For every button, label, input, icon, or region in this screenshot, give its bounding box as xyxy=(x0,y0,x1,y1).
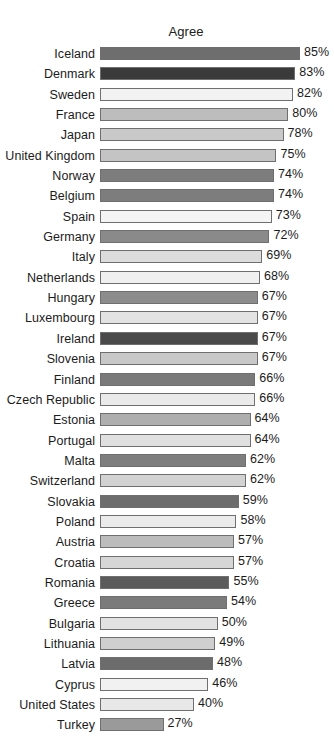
category-label: France xyxy=(0,107,95,123)
bar xyxy=(100,637,215,650)
category-label: United Kingdom xyxy=(0,148,95,164)
value-label: 67% xyxy=(262,350,287,365)
chart-row: Slovenia67% xyxy=(0,349,334,369)
category-label: Netherlands xyxy=(0,270,95,286)
bar-track xyxy=(100,637,300,650)
value-label: 58% xyxy=(240,513,265,528)
value-label: 75% xyxy=(280,147,305,162)
value-label: 82% xyxy=(297,86,322,101)
category-label: Austria xyxy=(0,534,95,550)
category-label: Spain xyxy=(0,209,95,225)
value-label: 74% xyxy=(278,167,303,182)
chart-row: Latvia48% xyxy=(0,654,334,674)
value-label: 72% xyxy=(273,228,298,243)
chart-row: Norway74% xyxy=(0,166,334,186)
chart-title: Agree xyxy=(100,24,272,39)
bar-track xyxy=(100,230,300,243)
bar xyxy=(100,250,262,263)
bar-track xyxy=(100,617,300,630)
chart-row: United Kingdom75% xyxy=(0,146,334,166)
category-label: Czech Republic xyxy=(0,392,95,408)
bar xyxy=(100,515,236,528)
bar xyxy=(100,495,239,508)
bar-track xyxy=(100,210,300,223)
category-label: Denmark xyxy=(0,66,95,82)
category-label: Belgium xyxy=(0,188,95,204)
value-label: 27% xyxy=(168,716,193,731)
category-label: Japan xyxy=(0,127,95,143)
chart-row: Bulgaria50% xyxy=(0,614,334,634)
chart-row: France80% xyxy=(0,105,334,125)
value-label: 64% xyxy=(255,432,280,447)
bar xyxy=(100,576,229,589)
bar xyxy=(100,108,288,121)
bar-track xyxy=(100,128,300,141)
chart-row: Germany72% xyxy=(0,227,334,247)
bar xyxy=(100,149,276,162)
chart-row: Slovakia59% xyxy=(0,492,334,512)
bar-track xyxy=(100,149,300,162)
category-label: Slovenia xyxy=(0,351,95,367)
category-label: Bulgaria xyxy=(0,616,95,632)
value-label: 49% xyxy=(219,635,244,650)
category-label: Luxembourg xyxy=(0,310,95,326)
chart-row: Portugal64% xyxy=(0,431,334,451)
bar xyxy=(100,718,164,731)
category-label: Ireland xyxy=(0,331,95,347)
bar xyxy=(100,311,258,324)
value-label: 67% xyxy=(262,330,287,345)
bar-track xyxy=(100,596,300,609)
bar xyxy=(100,88,293,101)
chart-row: Japan78% xyxy=(0,125,334,145)
value-label: 40% xyxy=(198,696,223,711)
chart-row: Sweden82% xyxy=(0,85,334,105)
category-label: Romania xyxy=(0,575,95,591)
value-label: 57% xyxy=(238,533,263,548)
bar xyxy=(100,67,295,80)
bar xyxy=(100,535,234,548)
category-label: Sweden xyxy=(0,87,95,103)
value-label: 50% xyxy=(222,615,247,630)
chart-row: Cyprus46% xyxy=(0,675,334,695)
bar xyxy=(100,332,258,345)
bar-track xyxy=(100,495,300,508)
chart-row: Belgium74% xyxy=(0,186,334,206)
chart-row: Austria57% xyxy=(0,532,334,552)
category-label: Latvia xyxy=(0,656,95,672)
category-label: Switzerland xyxy=(0,473,95,489)
bar xyxy=(100,189,274,202)
value-label: 74% xyxy=(278,187,303,202)
category-label: Malta xyxy=(0,453,95,469)
chart-row: Croatia57% xyxy=(0,553,334,573)
category-label: Italy xyxy=(0,249,95,265)
value-label: 55% xyxy=(233,574,258,589)
bar xyxy=(100,47,300,60)
chart-row: Luxembourg67% xyxy=(0,308,334,328)
chart-row: Hungary67% xyxy=(0,288,334,308)
value-label: 68% xyxy=(264,269,289,284)
chart-row: Poland58% xyxy=(0,512,334,532)
value-label: 67% xyxy=(262,289,287,304)
chart-row: Malta62% xyxy=(0,451,334,471)
bar-track xyxy=(100,169,300,182)
chart-row: Turkey27% xyxy=(0,715,334,735)
bar xyxy=(100,678,208,691)
chart-row: United States40% xyxy=(0,695,334,715)
bar xyxy=(100,271,260,284)
bar xyxy=(100,393,255,406)
chart-row: Finland66% xyxy=(0,370,334,390)
value-label: 62% xyxy=(250,452,275,467)
bar xyxy=(100,413,251,426)
category-label: Greece xyxy=(0,595,95,611)
bar xyxy=(100,698,194,711)
bar xyxy=(100,657,213,670)
value-label: 57% xyxy=(238,554,263,569)
value-label: 80% xyxy=(292,106,317,121)
bar-track xyxy=(100,189,300,202)
chart-row: Lithuania49% xyxy=(0,634,334,654)
agree-bar-chart: Agree Iceland85%Denmark83%Sweden82%Franc… xyxy=(0,0,334,749)
bar xyxy=(100,454,246,467)
category-label: Lithuania xyxy=(0,636,95,652)
bar xyxy=(100,352,258,365)
bar-track xyxy=(100,47,300,60)
